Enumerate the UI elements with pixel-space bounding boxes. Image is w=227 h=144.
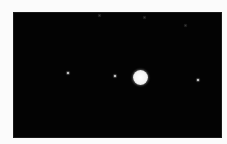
moon-2 [114,75,116,77]
faint-star-1 [99,15,100,16]
planet-jupiter [133,70,148,85]
moon-1 [67,72,69,74]
moon-3 [197,79,199,81]
faint-star-2 [144,17,145,18]
photo-frame [0,0,227,144]
faint-star-3 [185,25,186,26]
night-sky [13,12,222,138]
